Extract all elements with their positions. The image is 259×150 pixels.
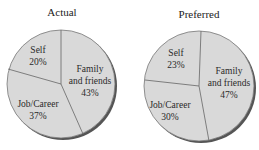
actual-self-pct: 20% — [29, 57, 47, 67]
preferred-family-pct: 47% — [220, 90, 238, 100]
actual-title: Actual — [47, 6, 76, 18]
actual-family-pct: 43% — [81, 88, 99, 98]
preferred-job-pct: 30% — [161, 112, 179, 122]
preferred-self-pct: 23% — [167, 60, 185, 70]
actual-family-label-2: and friends — [69, 76, 112, 86]
preferred-family-label-2: and friends — [208, 78, 251, 88]
pie-charts: Actual Self 20% Family and friends 43% J… — [0, 0, 259, 150]
preferred-title: Preferred — [179, 8, 220, 20]
preferred-family-label-1: Family — [216, 66, 243, 76]
preferred-self-label: Self — [168, 48, 184, 58]
actual-job-label: Job/Career — [17, 99, 59, 109]
actual-job-pct: 37% — [29, 111, 47, 121]
preferred-pie-chart: Preferred Self 23% Family and friends 47… — [144, 8, 256, 143]
actual-pie-chart: Actual Self 20% Family and friends 43% J… — [7, 6, 117, 140]
actual-family-label-1: Family — [77, 64, 104, 74]
actual-self-label: Self — [30, 45, 46, 55]
preferred-job-label: Job/Career — [149, 100, 191, 110]
